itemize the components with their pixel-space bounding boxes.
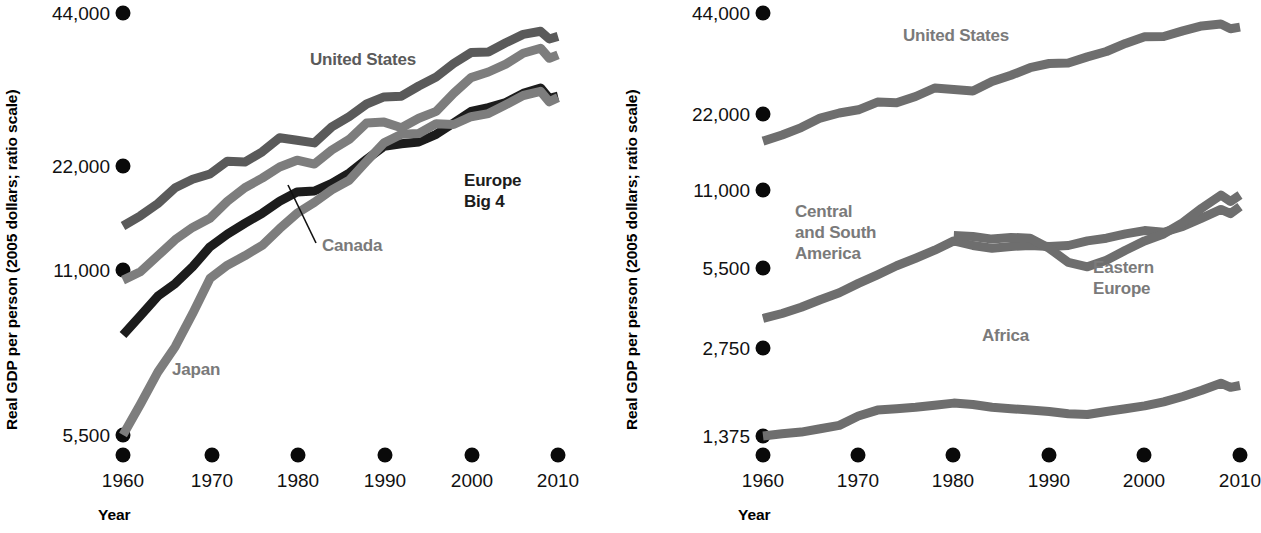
left-x-axis-title: Year xyxy=(98,506,130,523)
series-label-line: Japan xyxy=(172,360,220,379)
x-tick-dot xyxy=(205,448,220,463)
series-label-line: Europe xyxy=(1093,279,1150,298)
y-tick-label: 22,000 xyxy=(52,156,110,177)
x-tick-dot xyxy=(1137,448,1152,463)
y-tick-dot xyxy=(756,183,771,198)
series-label-line: Central xyxy=(795,202,852,221)
y-tick-dot xyxy=(756,261,771,276)
series-label-line: United States xyxy=(903,26,1009,45)
series-label-line: Africa xyxy=(982,326,1030,345)
series-label-line: Canada xyxy=(322,236,383,255)
x-tick-label: 1980 xyxy=(932,470,974,491)
right-x-axis-title: Year xyxy=(738,506,770,523)
series-label-united-states: United States xyxy=(903,26,1009,45)
x-tick-dot xyxy=(378,448,393,463)
x-tick-dot xyxy=(291,448,306,463)
y-tick-label: 11,000 xyxy=(693,180,750,201)
y-tick-label: 5,500 xyxy=(62,425,110,446)
x-tick-dot xyxy=(116,448,131,463)
y-tick-label: 44,000 xyxy=(692,3,750,24)
x-tick-label: 1960 xyxy=(742,470,784,491)
x-tick-label: 2000 xyxy=(451,470,493,491)
x-tick-dot xyxy=(1042,448,1057,463)
y-tick-label: 22,000 xyxy=(692,104,750,125)
x-tick-label: 2010 xyxy=(1219,470,1261,491)
y-tick-label: 11,000 xyxy=(53,260,110,281)
x-tick-label: 1990 xyxy=(1028,470,1070,491)
y-tick-label: 5,500 xyxy=(702,258,750,279)
x-tick-label: 1970 xyxy=(837,470,879,491)
y-tick-label: 44,000 xyxy=(52,3,110,24)
y-tick-dot xyxy=(756,107,771,122)
y-tick-dot xyxy=(116,159,131,174)
right-y-axis-title: Real GDP per person (2005 dollars; ratio… xyxy=(623,90,640,430)
series-label-line: United States xyxy=(310,50,416,69)
series-label-line: Eastern xyxy=(1093,258,1154,277)
x-tick-dot xyxy=(756,448,771,463)
series-label-line: Europe xyxy=(464,171,521,190)
x-tick-dot xyxy=(465,448,480,463)
series-label-line: and South xyxy=(795,223,876,242)
series-label-line: Big 4 xyxy=(464,192,505,211)
x-tick-label: 1970 xyxy=(191,470,233,491)
x-tick-dot xyxy=(946,448,961,463)
y-tick-label: 2,750 xyxy=(702,338,750,359)
figure-root: Real GDP per person (2005 dollars; ratio… xyxy=(0,0,1261,533)
x-tick-dot xyxy=(551,448,566,463)
series-label-united-states: United States xyxy=(310,50,416,69)
x-tick-label: 1990 xyxy=(364,470,406,491)
x-tick-label: 2000 xyxy=(1123,470,1165,491)
series-label-line: America xyxy=(795,244,861,263)
y-tick-dot xyxy=(756,341,771,356)
gdp-dual-panel-chart: Real GDP per person (2005 dollars; ratio… xyxy=(0,0,1261,533)
y-tick-label: 1,375 xyxy=(702,426,750,447)
x-tick-dot xyxy=(851,448,866,463)
y-tick-dot xyxy=(116,6,131,21)
x-tick-label: 2010 xyxy=(537,470,579,491)
series-label-canada: Canada xyxy=(322,236,383,255)
left-y-axis-title: Real GDP per person (2005 dollars; ratio… xyxy=(3,90,20,430)
x-tick-label: 1960 xyxy=(102,470,144,491)
series-label-japan: Japan xyxy=(172,360,220,379)
y-tick-dot xyxy=(756,6,771,21)
x-tick-dot xyxy=(1233,448,1248,463)
x-tick-label: 1980 xyxy=(277,470,319,491)
series-label-africa: Africa xyxy=(982,326,1030,345)
